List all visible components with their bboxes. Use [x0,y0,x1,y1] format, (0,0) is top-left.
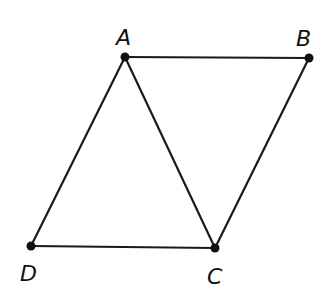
labels-group: ABCD [20,25,311,289]
point-b [305,54,314,63]
point-c [211,244,220,253]
segment-ac [125,57,215,248]
label-b: B [296,26,311,51]
segments-group [31,57,309,248]
point-a [121,53,130,62]
segment-ab [125,57,309,58]
point-d [27,242,36,251]
label-a: A [114,25,131,50]
segment-da [31,57,125,246]
label-d: D [20,261,37,286]
label-c: C [207,264,223,289]
segment-bc [215,58,309,248]
parallelogram-diagram: ABCD [0,0,332,295]
segment-cd [31,246,215,248]
